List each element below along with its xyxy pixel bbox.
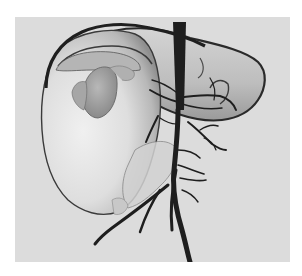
render-viewport: 3D surface rendering of a liver with hep… [15,17,290,262]
page: 3D surface rendering of a liver with hep… [0,0,302,276]
liver-rendering [15,17,290,262]
